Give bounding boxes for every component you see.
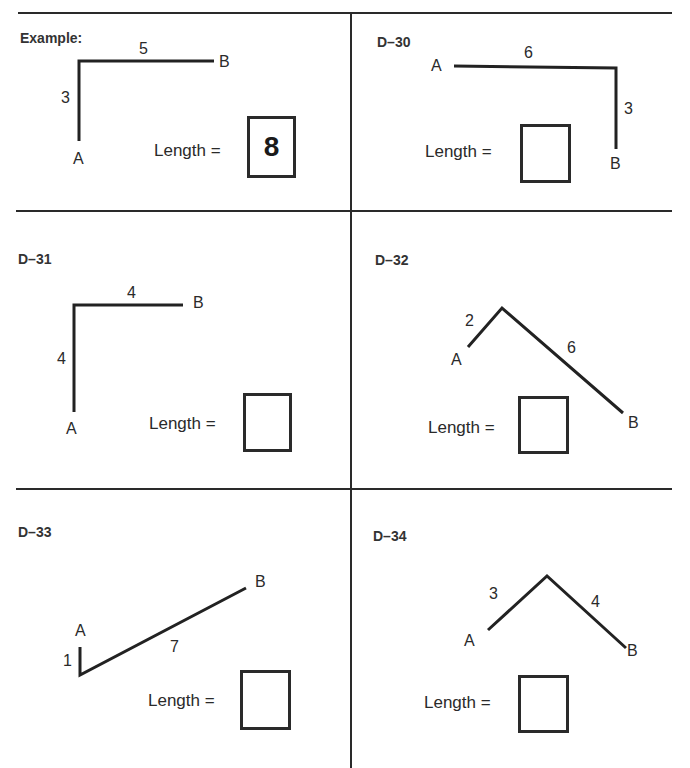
segment-label: 3 bbox=[489, 585, 498, 603]
segment-label: 6 bbox=[567, 339, 576, 357]
figures-layer bbox=[0, 0, 690, 768]
segment-label: 7 bbox=[170, 638, 179, 656]
point-a-label: A bbox=[464, 632, 475, 650]
length-label: Length = bbox=[148, 691, 215, 711]
path-d34 bbox=[488, 576, 626, 648]
point-a-label: A bbox=[66, 420, 77, 438]
panel-title: D–31 bbox=[18, 251, 51, 267]
point-b-label: B bbox=[219, 53, 230, 71]
point-b-label: B bbox=[610, 155, 621, 173]
point-b-label: B bbox=[255, 573, 266, 591]
panel-title: D–32 bbox=[375, 252, 408, 268]
panel-title: D–33 bbox=[18, 524, 51, 540]
segment-label: 5 bbox=[139, 40, 148, 58]
answer-box[interactable] bbox=[520, 124, 571, 183]
length-label: Length = bbox=[425, 142, 492, 162]
segment-label: 4 bbox=[591, 593, 600, 611]
length-label: Length = bbox=[424, 693, 491, 713]
segment-label: 4 bbox=[127, 284, 136, 302]
panel-title: D–34 bbox=[373, 528, 406, 544]
answer-box[interactable] bbox=[518, 675, 569, 733]
point-b-label: B bbox=[628, 414, 639, 432]
length-label: Length = bbox=[149, 414, 216, 434]
segment-label: 2 bbox=[465, 312, 474, 330]
segment-label: 1 bbox=[63, 652, 72, 670]
segment-label: 3 bbox=[61, 89, 70, 107]
path-d33 bbox=[80, 588, 246, 675]
point-a-label: A bbox=[75, 622, 86, 640]
path-d31 bbox=[74, 305, 183, 412]
path-example bbox=[79, 61, 214, 141]
point-a-label: A bbox=[431, 57, 442, 75]
length-label: Length = bbox=[428, 418, 495, 438]
segment-label: 6 bbox=[524, 44, 533, 62]
panel-title: Example: bbox=[20, 30, 82, 46]
panel-title: D–30 bbox=[377, 34, 410, 50]
point-b-label: B bbox=[193, 294, 204, 312]
point-b-label: B bbox=[627, 642, 638, 660]
answer-box: 8 bbox=[247, 116, 296, 178]
answer-box[interactable] bbox=[240, 670, 291, 730]
length-label: Length = bbox=[154, 141, 221, 161]
answer-box[interactable] bbox=[518, 396, 569, 454]
segment-label: 4 bbox=[57, 350, 66, 368]
answer-box[interactable] bbox=[243, 393, 292, 452]
segment-label: 3 bbox=[624, 100, 633, 118]
point-a-label: A bbox=[73, 150, 84, 168]
point-a-label: A bbox=[451, 351, 462, 369]
